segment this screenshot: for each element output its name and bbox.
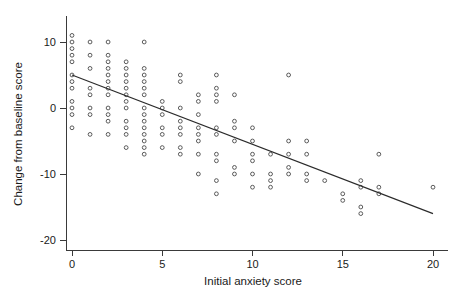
- data-point: [106, 113, 110, 117]
- data-point: [233, 139, 237, 143]
- data-point: [251, 126, 255, 130]
- data-point: [251, 152, 255, 156]
- data-point: [142, 40, 146, 44]
- data-point: [142, 152, 146, 156]
- data-point: [196, 126, 200, 130]
- data-point: [215, 179, 219, 183]
- data-point: [215, 93, 219, 97]
- data-point: [142, 86, 146, 90]
- data-point: [359, 205, 363, 209]
- data-point: [269, 152, 273, 156]
- y-tick-label: 0: [50, 102, 56, 114]
- x-tick-label: 5: [159, 258, 165, 270]
- data-point: [178, 152, 182, 156]
- data-point: [106, 119, 110, 123]
- data-point: [142, 126, 146, 130]
- data-point: [160, 126, 164, 130]
- data-point: [70, 86, 74, 90]
- regression-line: [72, 75, 433, 214]
- x-tick-label: 20: [427, 258, 439, 270]
- data-point: [124, 86, 128, 90]
- data-point: [377, 185, 381, 189]
- y-axis-title: Change from baseline score: [12, 62, 24, 206]
- data-point: [431, 185, 435, 189]
- data-point: [251, 159, 255, 163]
- data-point: [124, 146, 128, 150]
- data-point: [88, 93, 92, 97]
- data-point: [142, 113, 146, 117]
- data-point: [142, 133, 146, 137]
- data-point: [124, 80, 128, 84]
- data-point: [142, 67, 146, 71]
- data-point: [124, 60, 128, 64]
- data-point: [142, 80, 146, 84]
- data-point: [142, 93, 146, 97]
- data-point: [142, 106, 146, 110]
- data-point: [88, 40, 92, 44]
- data-point: [106, 80, 110, 84]
- data-point: [178, 126, 182, 130]
- data-point: [106, 40, 110, 44]
- data-point: [251, 172, 255, 176]
- data-point: [196, 133, 200, 137]
- data-point: [178, 119, 182, 123]
- data-point: [305, 179, 309, 183]
- data-point: [88, 113, 92, 117]
- data-point: [287, 73, 291, 77]
- data-point: [70, 126, 74, 130]
- y-tick-label: 10: [44, 36, 56, 48]
- data-point: [287, 139, 291, 143]
- data-point: [70, 34, 74, 38]
- data-point: [70, 113, 74, 117]
- plot-canvas: 100-10-20 Change from baseline score 051…: [0, 0, 454, 292]
- data-point: [142, 139, 146, 143]
- data-point: [251, 185, 255, 189]
- data-point: [88, 133, 92, 137]
- data-point: [124, 73, 128, 77]
- data-point: [88, 67, 92, 71]
- data-point: [215, 100, 219, 104]
- data-point: [233, 172, 237, 176]
- data-point: [287, 152, 291, 156]
- data-point: [269, 179, 273, 183]
- data-point: [269, 172, 273, 176]
- regression-line-layer: [72, 75, 433, 214]
- data-point: [196, 139, 200, 143]
- data-point: [323, 179, 327, 183]
- data-point: [124, 133, 128, 137]
- x-tick-label: 10: [246, 258, 258, 270]
- data-point: [359, 212, 363, 216]
- data-point: [88, 53, 92, 57]
- data-point: [142, 146, 146, 150]
- data-point: [106, 73, 110, 77]
- data-point: [233, 166, 237, 170]
- data-point: [160, 146, 164, 150]
- data-point: [142, 73, 146, 77]
- data-point: [106, 60, 110, 64]
- data-point: [215, 86, 219, 90]
- data-point: [106, 67, 110, 71]
- x-axis: 05101520 Initial anxiety score: [66, 250, 448, 287]
- data-point: [215, 152, 219, 156]
- data-point: [70, 100, 74, 104]
- data-point: [341, 199, 345, 203]
- data-point: [196, 172, 200, 176]
- data-point: [178, 133, 182, 137]
- data-point: [269, 185, 273, 189]
- data-point: [196, 152, 200, 156]
- data-point: [70, 60, 74, 64]
- data-point: [70, 47, 74, 51]
- data-point: [178, 80, 182, 84]
- data-point: [70, 53, 74, 57]
- data-point: [215, 73, 219, 77]
- data-point: [106, 53, 110, 57]
- y-axis-ticks: 100-10-20: [40, 36, 66, 246]
- data-point: [106, 106, 110, 110]
- x-axis-title: Initial anxiety score: [204, 275, 302, 287]
- x-axis-ticks: 05101520: [69, 250, 439, 270]
- data-point: [287, 166, 291, 170]
- data-point: [196, 113, 200, 117]
- data-point: [106, 93, 110, 97]
- data-point: [178, 106, 182, 110]
- data-point: [124, 126, 128, 130]
